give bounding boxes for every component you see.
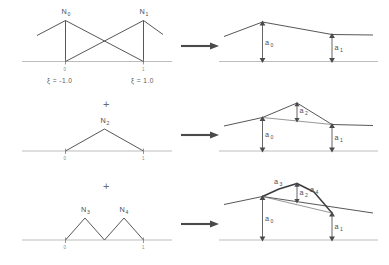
interpolation-curve-linear bbox=[224, 22, 373, 37]
amplitude-label-a2: a bbox=[300, 106, 305, 115]
amplitude-label-a1-subscript: 1 bbox=[340, 226, 343, 232]
arrow-row-3 bbox=[181, 220, 219, 227]
shape-curve-n2 bbox=[66, 129, 144, 151]
amplitude-label-a0-subscript: 0 bbox=[270, 218, 273, 224]
linear-basis-panel: N 0 N 1 0 1 ξ = -1.0 ξ = 1.0 bbox=[22, 7, 172, 85]
tick-label-1: 1 bbox=[142, 67, 145, 72]
amplitude-label-a0: a bbox=[265, 130, 270, 139]
shape-curve-n3-n4 bbox=[66, 218, 144, 240]
amplitude-label-a0: a bbox=[265, 38, 270, 47]
shape-label-n3-subscript: 3 bbox=[87, 209, 90, 215]
amplitude-label-a0: a bbox=[265, 214, 270, 223]
arrow-row-1 bbox=[181, 42, 219, 49]
shape-label-n3: N bbox=[81, 205, 86, 214]
tick-label-0: 0 bbox=[64, 156, 67, 161]
shape-label-n4: N bbox=[120, 205, 125, 214]
plus-operator-1: + bbox=[103, 98, 109, 110]
amplitude-label-a2: a bbox=[300, 188, 305, 197]
shape-label-n1-subscript: 1 bbox=[146, 11, 149, 17]
quadratic-bubble-panel: N 2 0 1 bbox=[22, 116, 172, 161]
figure-root: N 0 N 1 0 1 ξ = -1.0 ξ = 1.0 a 0 bbox=[0, 0, 389, 265]
shape-label-n4-subscript: 4 bbox=[126, 209, 129, 215]
right-arrow-head-2 bbox=[210, 131, 219, 138]
shape-label-n2-subscript: 2 bbox=[107, 120, 110, 126]
amplitude-label-a1: a bbox=[335, 43, 340, 52]
shape-function-figure: N 0 N 1 0 1 ξ = -1.0 ξ = 1.0 a 0 bbox=[0, 0, 389, 265]
plus-operator-2: + bbox=[103, 180, 109, 192]
amplitude-label-a0-subscript: 0 bbox=[270, 42, 273, 48]
arrow-row-2 bbox=[181, 131, 219, 138]
amplitude-label-a1: a bbox=[335, 133, 340, 142]
shape-curve-n0-left bbox=[37, 21, 66, 62]
shape-label-n0: N bbox=[62, 7, 67, 16]
tick-label-0: 0 bbox=[64, 245, 67, 250]
amplitude-label-a2-subscript: 2 bbox=[305, 110, 308, 116]
amplitude-label-a1: a bbox=[335, 222, 340, 231]
coordinate-label-left: ξ = -1.0 bbox=[47, 77, 72, 85]
amplitude-label-a1-subscript: 1 bbox=[340, 47, 343, 53]
quadratic-interpolation-panel: a 2 a 0 a 1 bbox=[219, 102, 378, 153]
cubic-bubble-panel: N 3 N 4 0 1 bbox=[22, 205, 172, 250]
right-arrow-head-1 bbox=[210, 42, 219, 49]
cubic-interpolation-panel: a 3 a 4 a 2 a 0 bbox=[219, 177, 378, 242]
amplitude-label-a4: a bbox=[310, 185, 315, 194]
coordinate-label-right: ξ = 1.0 bbox=[131, 77, 154, 85]
tick-label-0: 0 bbox=[64, 67, 67, 72]
amplitude-label-a3: a bbox=[274, 177, 279, 186]
tick-label-1: 1 bbox=[142, 245, 145, 250]
shape-label-n1: N bbox=[140, 7, 145, 16]
shape-label-n2: N bbox=[101, 116, 106, 125]
shape-label-n0-subscript: 0 bbox=[68, 11, 71, 17]
linear-interpolation-panel: a 0 a 1 bbox=[219, 21, 378, 64]
amplitude-label-a1-subscript: 1 bbox=[340, 137, 343, 143]
amplitude-label-a0-subscript: 0 bbox=[270, 134, 273, 140]
right-arrow-head-3 bbox=[210, 220, 219, 227]
shape-curve-n1-right bbox=[144, 21, 164, 35]
tick-label-1: 1 bbox=[142, 156, 145, 161]
amplitude-label-a2-subscript: 2 bbox=[305, 192, 308, 198]
amplitude-label-a3-subscript: 3 bbox=[279, 181, 282, 187]
amplitude-label-a4-subscript: 4 bbox=[315, 189, 318, 195]
interpolation-curve-quadratic bbox=[224, 103, 373, 126]
